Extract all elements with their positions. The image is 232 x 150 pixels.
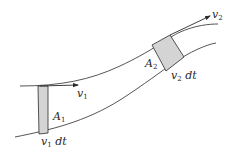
label-a2: A2 — [145, 58, 157, 71]
label-a1-sub: 1 — [61, 116, 65, 124]
label-v1-sub: 1 — [83, 93, 87, 101]
label-v1-dt-suffix: dt — [52, 135, 67, 148]
label-a1: A1 — [53, 111, 65, 124]
label-v2-dt: v2 dt — [171, 70, 197, 83]
velocity-arrow-v2 — [170, 16, 210, 35]
label-v2-dt-suffix: dt — [182, 69, 197, 82]
label-a2-base: A — [145, 57, 153, 70]
fluid-element-a1 — [38, 86, 48, 134]
label-v2: v2 — [212, 9, 223, 22]
label-v1-dt: v1 dt — [41, 136, 67, 149]
flow-tube-diagram — [0, 0, 232, 150]
label-v2-sub: 2 — [218, 14, 222, 22]
label-a2-sub: 2 — [153, 63, 157, 71]
label-a1-base: A — [53, 110, 61, 123]
label-v1: v1 — [77, 88, 88, 101]
